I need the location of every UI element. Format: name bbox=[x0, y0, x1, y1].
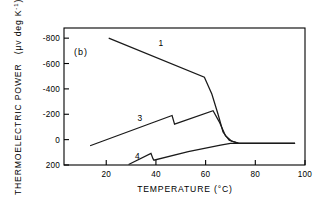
curve-1 bbox=[109, 38, 295, 143]
plot-frame bbox=[64, 28, 305, 165]
curve-label-4: 4 bbox=[135, 151, 140, 161]
curve-3 bbox=[90, 111, 295, 146]
curve-label-1: 1 bbox=[159, 38, 164, 48]
thermoelectric-power-chart: 20406080100 -800-600-400-2000200 134 (b)… bbox=[0, 0, 325, 200]
x-axis-tick-labels: 20406080100 bbox=[101, 170, 312, 179]
y-tick-label: 200 bbox=[46, 161, 61, 170]
curve-number-labels: 134 bbox=[135, 38, 164, 160]
y-tick-label: -200 bbox=[43, 110, 60, 119]
curve-label-3: 3 bbox=[137, 113, 142, 123]
y-axis-title-units-pre: (μv deg K bbox=[13, 10, 23, 55]
x-tick-label: 100 bbox=[298, 170, 313, 179]
x-tick-label: 60 bbox=[201, 170, 211, 179]
x-tick-label: 20 bbox=[101, 170, 111, 179]
y-axis-title-main: THERMOELECTRIC POWER bbox=[13, 64, 23, 196]
y-tick-label: -600 bbox=[43, 60, 60, 69]
y-tick-label: 0 bbox=[55, 136, 60, 145]
panel-label: (b) bbox=[74, 47, 88, 57]
y-axis-title: THERMOELECTRIC POWER (μv deg K-1) bbox=[13, 0, 23, 195]
y-axis-title-units-post: ) bbox=[13, 0, 23, 3]
y-axis-tick-labels: -800-600-400-2000200 bbox=[43, 34, 60, 170]
svg-text:THERMOELECTRIC POWER (: THERMOELECTRIC POWER (μv deg K-1) bbox=[13, 0, 23, 195]
y-tick-label: -800 bbox=[43, 34, 60, 43]
y-axis-ticks bbox=[64, 38, 69, 165]
y-axis-title-units-exponent: -1 bbox=[13, 3, 19, 10]
y-tick-label: -400 bbox=[43, 85, 60, 94]
data-curves bbox=[90, 38, 295, 164]
x-tick-label: 40 bbox=[151, 170, 161, 179]
x-axis-title: TEMPERATURE (°C) bbox=[137, 184, 233, 194]
x-tick-label: 80 bbox=[251, 170, 261, 179]
curve-4 bbox=[129, 143, 295, 164]
figure-panel-b: 20406080100 -800-600-400-2000200 134 (b)… bbox=[0, 0, 325, 200]
